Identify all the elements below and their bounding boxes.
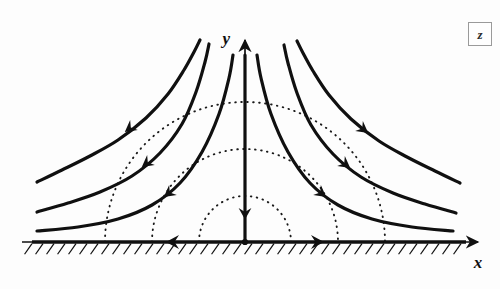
z-badge: z bbox=[468, 22, 492, 46]
streamlines bbox=[37, 40, 460, 242]
field-diagram: y x bbox=[0, 0, 500, 289]
z-badge-label: z bbox=[477, 28, 482, 41]
figure-root: y x z bbox=[0, 0, 500, 289]
origin-point bbox=[242, 239, 248, 245]
y-axis-label: y bbox=[220, 29, 230, 48]
streamline-far-left bbox=[37, 40, 200, 182]
x-axis-label: x bbox=[473, 253, 483, 272]
streamline-far-right bbox=[297, 41, 460, 183]
streamline-mid-right bbox=[284, 45, 456, 213]
axes bbox=[22, 40, 478, 245]
